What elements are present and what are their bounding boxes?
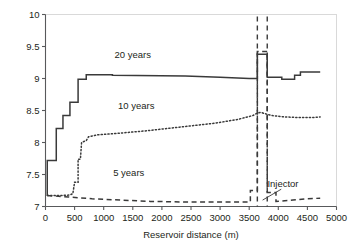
y-axis-tick-labels: 77.588.599.510 bbox=[26, 9, 39, 212]
x-tick-label: 1000 bbox=[93, 212, 114, 223]
y-tick-label: 8 bbox=[34, 137, 39, 148]
x-tick-label: 2000 bbox=[151, 212, 172, 223]
injector-marker-lines bbox=[257, 17, 267, 207]
y-tick-label: 7.5 bbox=[26, 169, 39, 180]
chart-figure: 77.588.599.510 0500100015002000250030003… bbox=[0, 0, 357, 252]
x-axis-tick-labels: 0500100015002000250030003500400045005000 bbox=[43, 212, 347, 223]
x-tick-label: 500 bbox=[67, 212, 83, 223]
x-tick-label: 3000 bbox=[210, 212, 231, 223]
x-tick-label: 4500 bbox=[297, 212, 318, 223]
series-annotations: 20 years10 years5 yearsInjector bbox=[113, 49, 298, 189]
injector-annotation: Injector bbox=[267, 178, 298, 189]
x-tick-label: 2500 bbox=[180, 212, 201, 223]
x-tick-label: 1500 bbox=[122, 212, 143, 223]
y-tick-label: 9.5 bbox=[26, 41, 39, 52]
y-tick-label: 9 bbox=[34, 73, 39, 84]
series-line-20-years bbox=[47, 54, 320, 195]
x-tick-label: 0 bbox=[43, 212, 48, 223]
injector-leader-line bbox=[263, 189, 282, 200]
y-tick-label: 8.5 bbox=[26, 105, 39, 116]
series-label-5-years: 5 years bbox=[113, 167, 144, 178]
series-label-20-years: 20 years bbox=[115, 49, 152, 60]
temperature-vs-distance-chart: 77.588.599.510 0500100015002000250030003… bbox=[0, 0, 357, 252]
y-tick-label: 7 bbox=[34, 201, 39, 212]
x-tick-label: 3500 bbox=[239, 212, 260, 223]
y-tick-label: 10 bbox=[29, 9, 40, 20]
x-tick-label: 5000 bbox=[326, 212, 347, 223]
series-label-10-years: 10 years bbox=[118, 100, 155, 111]
x-axis-title: Reservoir distance (m) bbox=[143, 229, 239, 240]
x-tick-label: 4000 bbox=[268, 212, 289, 223]
